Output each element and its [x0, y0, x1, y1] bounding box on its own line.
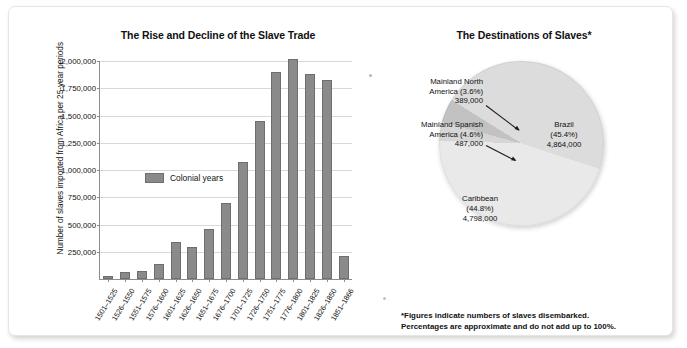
x-tick-mark: [226, 279, 227, 282]
speck-artifact-2-icon: [383, 297, 386, 300]
callout-na-line1: Mainland North: [375, 77, 483, 87]
legend-label-colonial-years: Colonial years: [170, 173, 223, 183]
bar: [154, 264, 164, 279]
footnote-line-1: *Figures indicate numbers of slaves dise…: [401, 311, 616, 322]
bar: [339, 256, 349, 279]
x-tick-mark: [108, 279, 109, 282]
bar-plot-area: 2,000,0001,750,0001,500,0001,250,0001,00…: [99, 61, 352, 280]
x-tick-mark: [142, 279, 143, 282]
x-tick-mark: [209, 279, 210, 282]
y-tick-label: 2,000,000: [61, 57, 96, 66]
pie-callout-mainland-spanish-america: Mainland Spanish America (4.6%) 487,000: [357, 120, 483, 149]
bar-chart-legend: Colonial years: [145, 173, 223, 183]
callout-sa-line1: Mainland Spanish: [357, 120, 483, 130]
pie-chart-title: The Destinations of Slaves*: [409, 29, 639, 41]
y-tick-label: 1,000,000: [61, 166, 96, 175]
bar: [305, 74, 315, 279]
x-tick-mark: [260, 279, 261, 282]
y-tick-label: 500,000: [68, 220, 96, 229]
x-tick-mark: [159, 279, 160, 282]
pie-label-brazil: Brazil (45.4%) 4,864,000: [529, 120, 599, 149]
bar: [204, 229, 214, 279]
callout-na-line3: 389,000: [375, 96, 483, 106]
x-tick-mark: [176, 279, 177, 282]
bar: [271, 72, 281, 279]
bars-group: [100, 61, 352, 279]
pie-chart-panel: Mainland North America (3.6%) 389,000 Ma…: [369, 47, 669, 336]
bar: [221, 203, 231, 279]
x-tick-mark: [293, 279, 294, 282]
bar: [288, 59, 298, 279]
figure-card: The Rise and Decline of the Slave Trade …: [8, 6, 673, 336]
bar: [238, 162, 248, 279]
x-tick-mark: [243, 279, 244, 282]
footnote-line-2: Percentages are approximate and do not a…: [401, 322, 616, 333]
bar: [322, 80, 332, 279]
y-tick-label: 750,000: [68, 193, 96, 202]
x-tick-mark: [125, 279, 126, 282]
bar: [171, 242, 181, 279]
y-tick-label: 1,250,000: [61, 138, 96, 147]
y-tick-label: 250,000: [68, 247, 96, 256]
label-brazil-line3: 4,864,000: [529, 140, 599, 150]
x-tick-mark: [310, 279, 311, 282]
y-axis-title: Number of slaves imported from Africa pe…: [56, 38, 67, 258]
speck-artifact-icon: [369, 74, 372, 77]
pie-label-caribbean: Caribbean (44.8%) 4,798,000: [445, 194, 515, 223]
bar-chart-title: The Rise and Decline of the Slave Trade: [73, 29, 363, 41]
label-caribbean-line1: Caribbean: [445, 194, 515, 204]
x-axis-labels-group: 1501–15251526–15501551–15751576–16001601…: [99, 285, 351, 336]
label-brazil-line1: Brazil: [529, 120, 599, 130]
callout-sa-line3: 487,000: [357, 139, 483, 149]
label-caribbean-line3: 4,798,000: [445, 214, 515, 224]
bar: [255, 121, 265, 279]
x-tick-mark: [192, 279, 193, 282]
y-tick-label: 1,500,000: [61, 111, 96, 120]
y-tick-label: 1,750,000: [61, 84, 96, 93]
bar: [137, 271, 147, 279]
figure-footnote: *Figures indicate numbers of slaves dise…: [401, 311, 616, 332]
bar-chart-panel: Number of slaves imported from Africa pe…: [27, 47, 367, 336]
legend-swatch-colonial-years: [145, 173, 164, 183]
label-brazil-line2: (45.4%): [529, 130, 599, 140]
x-tick-mark: [344, 279, 345, 282]
pie-callout-mainland-north-america: Mainland North America (3.6%) 389,000: [375, 77, 483, 106]
bar: [187, 247, 197, 279]
label-caribbean-line2: (44.8%): [445, 204, 515, 214]
x-tick-mark: [276, 279, 277, 282]
x-tick-mark: [327, 279, 328, 282]
callout-sa-line2: America (4.6%): [357, 130, 483, 140]
callout-na-line2: America (3.6%): [375, 87, 483, 97]
